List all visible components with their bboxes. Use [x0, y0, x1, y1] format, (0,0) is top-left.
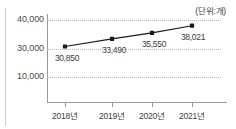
line-chart-figure: (단위:개) 40,00030,00010,000 2018년2019년2020… — [0, 0, 236, 129]
series-marker — [110, 37, 114, 41]
series-plot — [0, 0, 236, 129]
data-point-label: 38,021 — [181, 32, 205, 42]
data-point-label: 33,490 — [102, 45, 126, 55]
series-marker — [150, 31, 154, 35]
series-marker — [63, 44, 67, 48]
series-line — [65, 26, 192, 47]
series-marker — [190, 24, 194, 28]
data-point-label: 35,550 — [142, 39, 166, 49]
data-point-label: 30,850 — [55, 53, 79, 63]
